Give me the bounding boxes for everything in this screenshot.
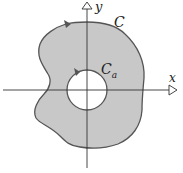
x-axis-arrow-icon <box>169 85 177 95</box>
x-axis-label: x <box>169 72 176 84</box>
outer-curve-label: C <box>114 15 125 29</box>
y-axis-arrow-icon <box>82 2 92 9</box>
diagram-canvas <box>0 0 183 173</box>
inner-curve-label-sub: a <box>112 70 117 80</box>
inner-curve-label: Ca <box>101 62 117 80</box>
y-axis-label: y <box>95 0 102 13</box>
inner-curve-label-main: C <box>101 61 112 77</box>
